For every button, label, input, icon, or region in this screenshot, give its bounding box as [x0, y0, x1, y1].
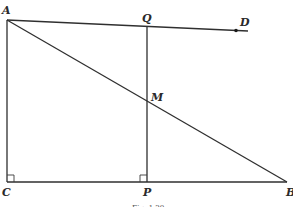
label-q: Q: [142, 12, 152, 25]
point-d-marker: [234, 29, 238, 33]
label-b: B: [285, 186, 293, 199]
right-angle-c-icon: [7, 175, 14, 182]
line-ad: [7, 20, 248, 31]
label-p: P: [142, 186, 152, 199]
label-a: A: [1, 4, 11, 17]
right-angle-p-icon: [140, 175, 147, 182]
label-c: C: [2, 186, 11, 199]
label-d: D: [239, 16, 250, 29]
label-m: M: [150, 91, 164, 104]
figure-caption: Fig. 1.30: [132, 203, 165, 207]
geometry-diagram: A Q D M C P B Fig. 1.30: [0, 0, 293, 207]
